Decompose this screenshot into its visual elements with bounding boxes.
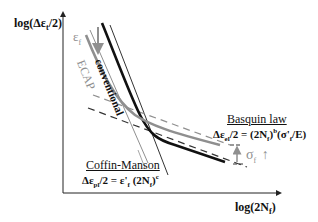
ef-label: εf <box>73 29 81 47</box>
diagram-canvas <box>0 0 318 222</box>
fatigue-diagram: log(Δεt/2) log(2Nf) εf conventional ECAP… <box>0 0 318 222</box>
sigma-f-label: σf ↑ <box>246 147 269 165</box>
coffin-manson-title: Coffin-Manson <box>86 158 160 173</box>
basquin-law-title: Basquin law <box>227 112 287 127</box>
basquin-law-equation: Δεel/2 = (2Nf)b(σ'f/E) <box>213 127 306 143</box>
y-axis-label: log(Δεt/2) <box>14 16 62 32</box>
coffin-manson-equation: Δεpl/2 = ε'f (2Nf)c <box>82 173 159 189</box>
x-axis-label: log(2Nf) <box>235 200 276 216</box>
